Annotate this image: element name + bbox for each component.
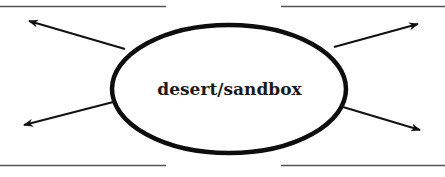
arrow-down-left-icon: [24, 100, 121, 125]
arrow-up-right-icon: [334, 24, 418, 47]
arrow-up-left-icon: [29, 21, 125, 49]
center-label: desert/sandbox: [111, 56, 348, 122]
